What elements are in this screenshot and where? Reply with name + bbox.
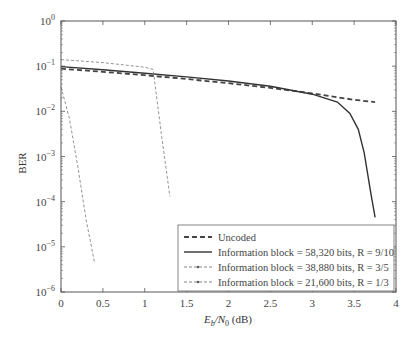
x-tick-label: 0 bbox=[58, 297, 64, 309]
y-tick-label: 10−5 bbox=[35, 239, 55, 253]
series-line-2 bbox=[61, 60, 170, 197]
legend-label-r13: Information block = 21,600 bits, R = 1/3 bbox=[218, 277, 389, 288]
y-tick-label: 10−2 bbox=[35, 103, 55, 117]
series-line-0 bbox=[61, 69, 375, 102]
x-tick-label: 4 bbox=[393, 297, 399, 309]
y-tick-label: 10−1 bbox=[35, 58, 55, 72]
x-tick-label: 2.5 bbox=[264, 297, 278, 309]
x-tick-label: 0.5 bbox=[96, 297, 110, 309]
x-axis-label: Eb/N0 (dB) bbox=[203, 313, 252, 328]
legend: Uncoded Information block = 58,320 bits,… bbox=[178, 225, 394, 291]
legend-marker-r35 bbox=[197, 266, 199, 268]
y-tick-label: 10−4 bbox=[35, 194, 55, 208]
series-line-3 bbox=[61, 87, 95, 263]
legend-label-r35: Information block = 38,880 bits, R = 3/5 bbox=[218, 262, 389, 273]
x-tick-label: 1.5 bbox=[180, 297, 194, 309]
x-tick-label: 3 bbox=[310, 297, 316, 309]
y-tick-label: 10−3 bbox=[35, 149, 55, 163]
x-tick-label: 2 bbox=[226, 297, 232, 309]
ber-chart: 00.511.522.533.5410010−110−210−310−410−5… bbox=[0, 0, 417, 340]
y-tick-label: 100 bbox=[40, 13, 55, 27]
y-axis-label: BER bbox=[16, 152, 28, 174]
legend-label-r910: Information block = 58,320 bits, R = 9/1… bbox=[218, 247, 394, 258]
series-line-1 bbox=[61, 67, 375, 218]
x-tick-label: 3.5 bbox=[347, 297, 361, 309]
y-tick-label: 10−6 bbox=[35, 284, 55, 298]
legend-marker-r13 bbox=[197, 281, 199, 283]
legend-label-uncoded: Uncoded bbox=[218, 232, 257, 243]
x-tick-label: 1 bbox=[142, 297, 148, 309]
